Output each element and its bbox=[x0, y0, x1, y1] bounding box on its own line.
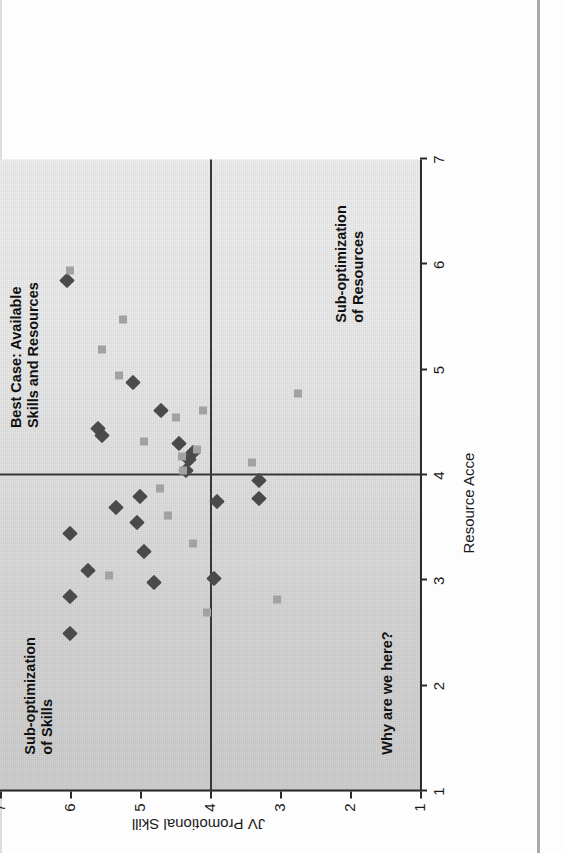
y-tick bbox=[70, 791, 72, 798]
y-tick-label: 2 bbox=[341, 803, 358, 825]
x-tick-label: 2 bbox=[430, 674, 447, 698]
data-point-high-satisfaction bbox=[119, 315, 127, 323]
data-point-high-satisfaction bbox=[193, 445, 201, 453]
data-point-high-satisfaction bbox=[248, 458, 256, 466]
x-tick bbox=[420, 578, 427, 580]
data-point-high-satisfaction bbox=[294, 389, 302, 397]
data-point-high-satisfaction bbox=[178, 452, 186, 460]
quadrant-label-top-left: Sub-optimization of Skills bbox=[22, 637, 56, 755]
x-tick-label: 6 bbox=[430, 252, 447, 276]
x-tick-label: 7 bbox=[430, 147, 447, 171]
x-tick-label: 3 bbox=[430, 568, 447, 592]
x-tick bbox=[420, 368, 427, 370]
data-point-high-satisfaction bbox=[189, 539, 197, 547]
x-axis-title: Resource Acce bbox=[460, 452, 477, 553]
quadrant-label-bottom-left: Why are we here? bbox=[379, 631, 396, 754]
x-tick bbox=[420, 262, 427, 264]
y-tick bbox=[420, 791, 422, 798]
data-point-high-satisfaction bbox=[105, 571, 113, 579]
y-tick bbox=[210, 791, 212, 798]
quadrant-label-bottom-right: Sub-optimization of Resources bbox=[333, 205, 367, 323]
data-point-high-satisfaction bbox=[203, 608, 211, 616]
quadrant-divider-horizontal bbox=[210, 159, 212, 791]
data-point-high-satisfaction bbox=[156, 484, 164, 492]
y-axis-title: JV Promotional Skill bbox=[132, 816, 265, 833]
x-tick bbox=[420, 684, 427, 686]
data-point-high-satisfaction bbox=[164, 511, 172, 519]
data-point-high-satisfaction bbox=[115, 371, 123, 379]
y-tick bbox=[0, 791, 2, 798]
x-tick bbox=[420, 473, 427, 475]
data-point-high-satisfaction bbox=[179, 466, 187, 474]
data-point-high-satisfaction bbox=[66, 266, 74, 274]
y-tick-label: 7 bbox=[0, 803, 8, 825]
quadrant-label-top-right: Best Case: Available Skills and Resource… bbox=[8, 282, 42, 428]
data-point-high-satisfaction bbox=[273, 595, 281, 603]
chart-figure: 1234567 1234567 Resource Acce JV Promoti… bbox=[0, 0, 562, 853]
data-point-high-satisfaction bbox=[199, 406, 207, 414]
data-point-high-satisfaction bbox=[98, 345, 106, 353]
y-tick bbox=[350, 791, 352, 798]
x-tick-label: 1 bbox=[430, 779, 447, 803]
y-tick-label: 6 bbox=[61, 803, 78, 825]
data-point-high-satisfaction bbox=[172, 413, 180, 421]
y-tick-label: 3 bbox=[271, 803, 288, 825]
x-tick-label: 4 bbox=[430, 463, 447, 487]
x-tick bbox=[420, 157, 427, 159]
y-tick-label: 1 bbox=[411, 803, 428, 825]
y-tick bbox=[140, 791, 142, 798]
x-tick-label: 5 bbox=[430, 358, 447, 382]
y-tick bbox=[280, 791, 282, 798]
data-point-high-satisfaction bbox=[140, 437, 148, 445]
